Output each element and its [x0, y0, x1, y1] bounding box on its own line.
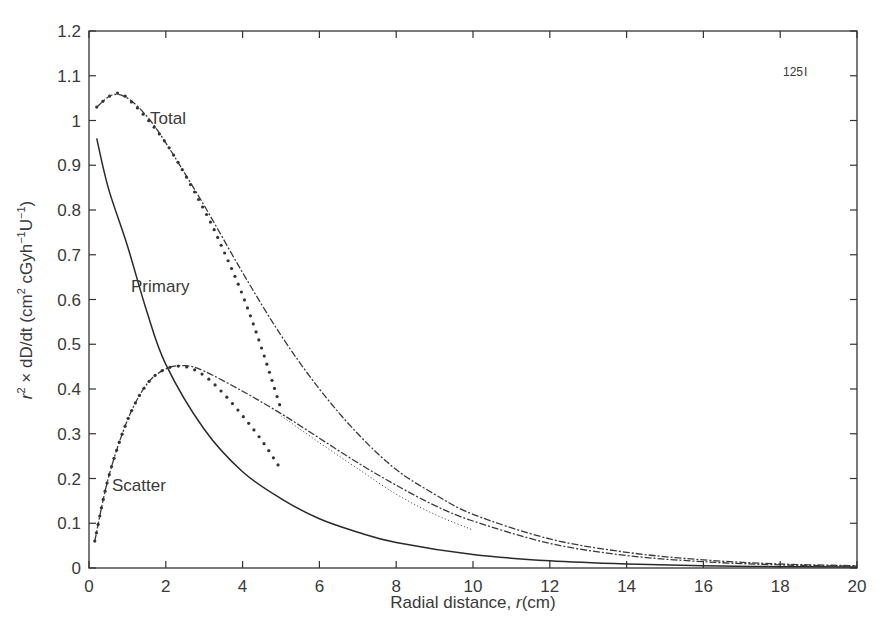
- x-tick-label: 0: [84, 577, 93, 596]
- y-tick-label: 0: [72, 559, 81, 578]
- series-scatter: [95, 366, 857, 567]
- y-tick-label: 0.2: [57, 470, 81, 489]
- label-primary: Primary: [131, 277, 190, 296]
- curves: [93, 91, 857, 567]
- x-tick-label: 14: [617, 577, 636, 596]
- series-scatter-short-range-10-cm: [281, 416, 473, 530]
- y-tick-label: 0.3: [57, 425, 81, 444]
- x-tick-label: 6: [315, 577, 324, 596]
- y-tick-label: 1: [72, 112, 81, 131]
- series-scatter-short-range-5-cm: [93, 364, 281, 542]
- y-tick-label: 0.8: [57, 201, 81, 220]
- label-total: Total: [150, 109, 186, 128]
- x-tick-label: 4: [238, 577, 247, 596]
- y-tick-label: 0.4: [57, 380, 81, 399]
- x-tick-label: 20: [848, 577, 867, 596]
- x-tick-label: 2: [161, 577, 170, 596]
- series-primary: [97, 138, 857, 567]
- y-tick-label: 0.1: [57, 514, 81, 533]
- label-scatter: Scatter: [112, 476, 166, 495]
- y-tick-label: 0.7: [57, 246, 81, 265]
- label-isotope: 125I: [783, 65, 807, 79]
- y-axis-label: r2 × dD/dt (cm2 cGyh−1U−1): [15, 201, 36, 399]
- isotope-mass: 125: [783, 65, 803, 79]
- x-axis-label: Radial distance, r(cm): [390, 593, 555, 612]
- chart: 0246810121416182000.10.20.30.40.50.60.70…: [0, 0, 884, 635]
- y-tick-label: 0.9: [57, 156, 81, 175]
- series-total: [97, 94, 857, 565]
- x-tick-label: 18: [771, 577, 790, 596]
- y-tick-label: 0.6: [57, 291, 81, 310]
- y-tick-label: 0.5: [57, 335, 81, 354]
- y-tick-label: 1.2: [57, 22, 81, 41]
- isotope-symbol: I: [804, 65, 807, 79]
- plot-frame: [89, 31, 857, 568]
- y-tick-label: 1.1: [57, 67, 81, 86]
- x-tick-label: 16: [694, 577, 713, 596]
- series-total-short-range: [95, 91, 281, 409]
